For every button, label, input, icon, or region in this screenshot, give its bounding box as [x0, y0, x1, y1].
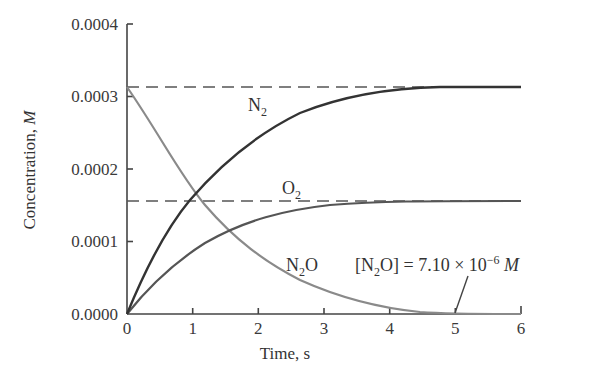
- annotation-pointer-line: [455, 276, 468, 313]
- x-tick-label: 4: [385, 319, 394, 338]
- y-tick-label: 0.0001: [71, 232, 118, 251]
- y-tick-label: 0.0003: [71, 87, 118, 106]
- x-tick-label: 3: [320, 319, 329, 338]
- y-axis-title-text: Concentration,: [20, 125, 39, 230]
- y-axis-title-unit: M: [20, 110, 39, 126]
- concentration-time-chart: 0.0004 0.0003 0.0002 0.0001 0.0000 0 1 2…: [0, 0, 589, 382]
- x-tick-label: 2: [254, 319, 263, 338]
- y-tick-label: 0.0000: [71, 305, 118, 324]
- y-tick-labels: 0.0004 0.0003 0.0002 0.0001 0.0000: [71, 15, 118, 324]
- x-tick-label: 5: [451, 319, 460, 338]
- x-tick-label: 1: [188, 319, 197, 338]
- x-tick-label: 0: [123, 319, 132, 338]
- y-tick-label: 0.0002: [71, 160, 118, 179]
- y-tick-label: 0.0004: [71, 15, 118, 34]
- x-tick-labels: 0 1 2 3 4 5 6: [123, 319, 526, 338]
- x-tick-label: 6: [517, 319, 526, 338]
- series-label-o2: O2: [282, 178, 301, 202]
- x-axis-title: Time, s: [260, 344, 310, 363]
- series-label-n2: N2: [248, 95, 267, 119]
- y-axis-title: Concentration, M: [20, 110, 39, 230]
- n2o-final-annotation: [N2O] = 7.10 × 10−6 M: [355, 253, 520, 279]
